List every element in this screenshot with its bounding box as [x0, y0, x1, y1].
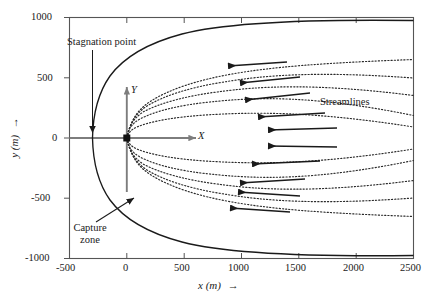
y-axis-title-text: y (m) [8, 135, 20, 158]
x-tick-label-2000: 2000 [343, 262, 364, 273]
x-axis-title-text: x (m) [198, 279, 221, 291]
x-tick-label-0: 0 [123, 262, 128, 273]
y-tick-label-neg500: -500 [31, 192, 50, 203]
capture-zone-label-line1: Capture [62, 222, 118, 234]
x-tick-label-2500: 2500 [400, 262, 421, 273]
chart-background [0, 0, 440, 303]
capture-zone-label: Capture zone [62, 222, 118, 246]
y-tick-label-1000: 1000 [31, 11, 52, 22]
x-axis-arrow: → [224, 279, 238, 291]
x-tick-label-neg500: -500 [56, 262, 75, 273]
y-tick-label-0: 0 [52, 132, 57, 143]
x-tick-label-500: 500 [174, 262, 190, 273]
well-marker [123, 135, 130, 142]
capture-zone-label-line2: zone [62, 234, 118, 246]
y-axis-arrow: → [8, 118, 20, 132]
local-x-axis-label: X [198, 130, 204, 141]
stagnation-point-label: Stagnation point [67, 36, 136, 48]
capture-zone-chart [0, 0, 440, 303]
y-tick-label-500: 500 [37, 72, 53, 83]
y-tick-label-neg1000: -1000 [25, 252, 50, 263]
x-tick-label-1000: 1000 [228, 262, 249, 273]
x-tick-label-1500: 1500 [285, 262, 306, 273]
streamlines-label: Streamlines [320, 96, 370, 108]
local-y-axis-label: Y [131, 84, 137, 95]
y-axis-title: y (m) → [8, 110, 20, 166]
x-axis-title: x (m) → [198, 279, 238, 291]
